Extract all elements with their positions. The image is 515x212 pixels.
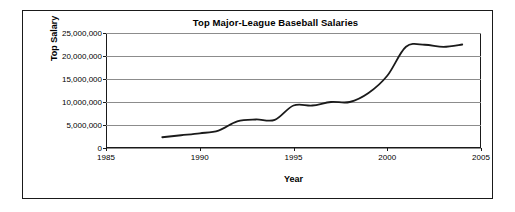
chart-figure: Top Major-League Baseball Salaries Top S… (22, 10, 493, 199)
x-axis-label: Year (106, 174, 481, 184)
chart-title: Top Major-League Baseball Salaries (23, 17, 492, 28)
plot-area: 05,000,00010,000,00015,000,00020,000,000… (106, 33, 481, 148)
y-tick-label: 10,000,000 (62, 98, 102, 107)
x-tick-label: 1985 (97, 153, 115, 162)
y-tick-label: 5,000,000 (66, 121, 102, 130)
x-tick-label: 1990 (191, 153, 209, 162)
x-tick-mark (200, 148, 201, 151)
x-tick-mark (387, 148, 388, 151)
y-tick-label: 0 (98, 144, 102, 153)
series-line-top-salary (106, 33, 481, 148)
x-tick-mark (294, 148, 295, 151)
x-tick-mark (106, 148, 107, 151)
x-tick-label: 1995 (285, 153, 303, 162)
y-tick-label: 15,000,000 (62, 75, 102, 84)
y-axis-label: Top Salary (49, 16, 59, 61)
y-tick-label: 20,000,000 (62, 52, 102, 61)
x-tick-label: 2005 (472, 153, 490, 162)
y-tick-label: 25,000,000 (62, 29, 102, 38)
series-path (162, 44, 462, 137)
x-tick-label: 2000 (378, 153, 396, 162)
x-tick-mark (481, 148, 482, 151)
